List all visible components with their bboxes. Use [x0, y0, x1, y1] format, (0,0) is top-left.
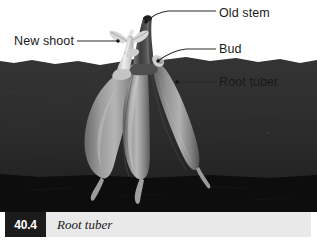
leader-dot-bud [156, 59, 159, 62]
leader-dot-new-shoot [116, 39, 119, 42]
leader-dot-old-stem [144, 20, 147, 23]
label-root-tuber: Root tuber [219, 76, 278, 89]
label-new-shoot: New shoot [14, 35, 74, 48]
leader-dot-root-tuber [175, 80, 178, 83]
label-old-stem: Old stem [219, 7, 270, 20]
label-bud: Bud [219, 43, 242, 56]
root-tuber-figure: Old stem New shoot Bud Root tuber 40.4 R… [0, 0, 317, 245]
figure-caption-text: Root tuber [46, 212, 311, 237]
figure-number-badge: 40.4 [5, 212, 46, 237]
old-stem-base-flare [129, 64, 157, 75]
figure-caption-bar: 40.4 Root tuber [5, 212, 311, 237]
soil-lower-layer [0, 174, 317, 212]
